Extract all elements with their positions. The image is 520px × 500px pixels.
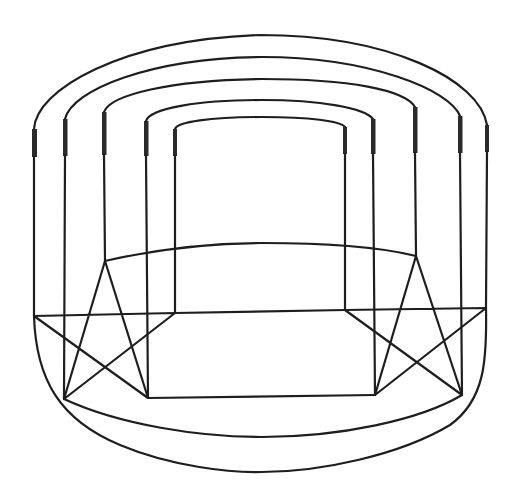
post-right-3 [415, 153, 416, 256]
left-star-path [34, 261, 175, 399]
top-arc-2 [65, 57, 460, 119]
top-arcs [34, 35, 487, 129]
bottom-horizontal-line [148, 395, 375, 398]
terminal-block [413, 107, 418, 153]
terminal-block [485, 125, 489, 152]
pentagram-network-diagram [0, 0, 520, 500]
terminal-block [63, 119, 68, 156]
terminal-block [343, 127, 347, 154]
top-arc-5 [175, 117, 345, 129]
right-pentagram [345, 256, 486, 395]
post-left-4 [146, 156, 148, 398]
terminals [32, 107, 489, 157]
post-right-5 [486, 152, 487, 308]
terminal-block [371, 119, 376, 154]
post-left-2 [64, 156, 65, 399]
terminal-block [173, 129, 177, 156]
middle-horizontal-line [175, 310, 345, 313]
post-right-4 [460, 153, 462, 395]
terminal-block [144, 121, 149, 156]
post-left-3 [104, 155, 105, 261]
terminal-block [32, 129, 37, 157]
left-pentagram [34, 261, 175, 399]
outer-bottom-curve [34, 308, 486, 472]
terminal-block [458, 116, 463, 153]
connectors [34, 243, 486, 472]
top-arc-3 [104, 79, 415, 112]
lid-arc [105, 243, 416, 261]
terminal-block [102, 112, 107, 155]
post-right-2 [373, 154, 375, 395]
vertical-posts [34, 152, 487, 399]
top-arc-1 [34, 35, 487, 129]
right-star-path [345, 256, 486, 395]
inner-bottom-curve [64, 395, 462, 437]
